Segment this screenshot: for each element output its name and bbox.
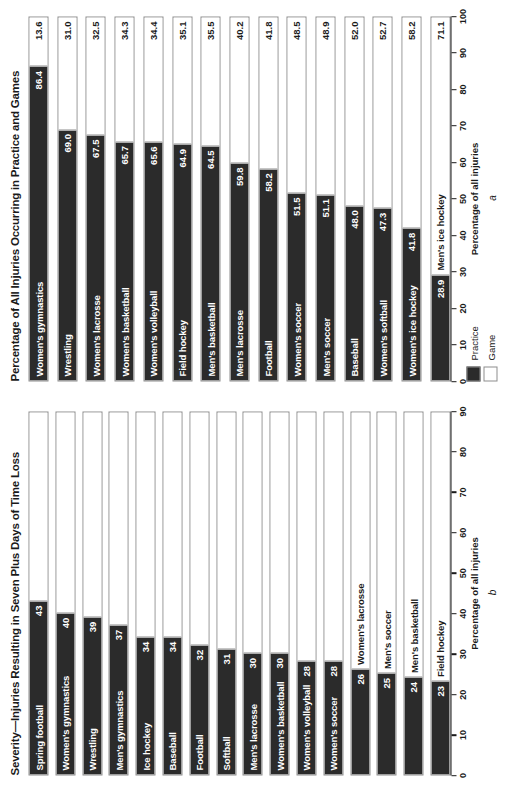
bar-category-label: Football [193, 734, 204, 774]
bar-value-practice: 65.7 [119, 146, 130, 165]
bar-segment-practice: Women's soccer51.5 [287, 193, 305, 380]
axis-tick-label: 20 [457, 303, 467, 313]
bar-value-practice: 64.5 [205, 150, 216, 169]
bar-segment-practice: Women's volleyball28 [297, 661, 315, 774]
legend: PracticeGame [466, 326, 497, 381]
bar-category-label: Wrestling [61, 334, 72, 380]
bar-value-practice: 28 [327, 665, 338, 676]
bar-segment-practice: Wrestling69.0 [58, 130, 76, 380]
axis-tick-label: 100 [457, 8, 467, 23]
bar-segment-practice: Men's gymnastics37 [109, 625, 127, 774]
bar-row: Wrestling39 [82, 411, 102, 775]
axis-tick [451, 271, 456, 272]
bar-row: 24Men's basketball [403, 411, 423, 775]
bar-segment-game: 35.1 [173, 17, 191, 144]
bar-segment-game: 41.8 [259, 17, 277, 169]
bar-segment-practice: Men's soccer51.1 [316, 195, 334, 380]
axis-tick [451, 380, 456, 381]
bar-value-practice: 59.8 [233, 167, 244, 186]
bar-category-label: Men's basketball [408, 598, 419, 676]
bar-segment-game: 34.4 [144, 17, 162, 142]
bar-row: Ice hockey34 [135, 411, 155, 775]
bar-value-practice: 28.9 [434, 279, 445, 298]
bar-segment-game: Field hockey [431, 412, 449, 682]
bar-value-practice: 67.5 [90, 139, 101, 158]
figure-page: Severity—Injuries Resulting in Seven Plu… [0, 0, 523, 789]
panel-a-x-axis: 0102030405060708090100 [450, 16, 461, 381]
bar-row: Women's gymnastics86.413.6 [28, 16, 48, 381]
axis-tick [451, 532, 456, 533]
bar-category-label: Baseball [348, 338, 359, 380]
bar-value-practice: 28 [300, 665, 311, 676]
axis-tick [451, 451, 456, 452]
bar-category-label: Softball [220, 736, 231, 774]
axis-tick-label: 40 [457, 230, 467, 240]
axis-tick-label: 40 [457, 608, 467, 618]
bar-category-label: Women's ice hockey [406, 285, 417, 380]
bar-segment-practice: Football58.2 [259, 169, 277, 380]
axis-tick-label: 80 [457, 84, 467, 94]
bar-value-game: 34.3 [119, 21, 130, 40]
bar-category-label: Men's lacrosse [233, 310, 244, 380]
bar-row: Men's basketball64.535.5 [200, 16, 220, 381]
bar-segment-game [83, 412, 101, 617]
axis-tick-label: 30 [457, 266, 467, 276]
axis-tick [451, 198, 456, 199]
bar-value-practice: 64.9 [176, 148, 187, 167]
bar-value-practice: 34 [140, 641, 151, 652]
bar-segment-practice: Women's volleyball65.6 [144, 142, 162, 380]
panel-a-letter: a [486, 195, 497, 201]
bar-segment-game: 35.5 [201, 17, 219, 146]
bar-category-label: Ice hockey [140, 722, 151, 774]
bar-row: Women's ice hockey41.858.2 [401, 16, 421, 381]
bar-category-label: Spring football [33, 704, 44, 774]
bar-value-game: 58.2 [406, 21, 417, 40]
bar-value-practice: 24 [408, 681, 419, 692]
bar-value-practice: 58.2 [262, 173, 273, 192]
panel-a-practice-vs-games: Percentage of All Injuries Occurring in … [0, 0, 523, 395]
bar-row: Field hockey64.935.1 [172, 16, 192, 381]
bar-row: Spring football43 [28, 411, 48, 775]
axis-tick-label: 20 [457, 689, 467, 699]
bar-segment-game: 13.6 [29, 17, 47, 66]
bar-row: 26Women's lacrosse [350, 411, 370, 775]
bar-segment-game: 34.3 [115, 17, 133, 142]
bar-category-label: Field hockey [176, 320, 187, 380]
axis-tick [451, 653, 456, 654]
bar-category-label: Men's gymnastics [113, 690, 124, 774]
axis-tick [451, 161, 456, 162]
bar-category-label: Women's basketball [119, 287, 130, 380]
axis-tick [451, 410, 456, 411]
bar-segment-game [163, 412, 181, 637]
bar-segment-practice: Women's basketball30 [270, 653, 288, 774]
bar-category-label: Wrestling [86, 728, 97, 774]
bar-value-game: 34.4 [147, 21, 158, 40]
bar-segment-practice: Men's lacrosse30 [243, 653, 261, 774]
axis-tick-label: 80 [457, 446, 467, 456]
axis-tick-label: 90 [457, 47, 467, 57]
axis-tick-label: 50 [457, 568, 467, 578]
axis-tick-label: 10 [457, 730, 467, 740]
bar-value-practice: 23 [434, 686, 445, 697]
bar-category-label: Women's volleyball [147, 290, 158, 380]
bar-row: Men's gymnastics37 [108, 411, 128, 775]
bar-row: Wrestling69.031.0 [57, 16, 77, 381]
bar-segment-practice: Women's soccer28 [324, 661, 342, 774]
axis-tick [451, 52, 456, 53]
bar-segment-practice: Women's gymnastics86.4 [29, 66, 47, 380]
bar-category-label: Men's ice hockey [434, 194, 445, 274]
bar-row: Women's basketball65.734.3 [114, 16, 134, 381]
bar-segment-game: Men's basketball [404, 412, 422, 677]
bar-value-practice: 86.4 [33, 70, 44, 89]
bar-segment-game: 48.5 [287, 17, 305, 193]
bar-row: 23Field hockey [430, 411, 450, 775]
bar-segment-game [109, 412, 127, 625]
bar-segment-game [243, 412, 261, 653]
axis-tick [451, 734, 456, 735]
bar-value-game: 48.5 [291, 21, 302, 40]
bar-row: Women's gymnastics40 [55, 411, 75, 775]
panel-b-plot-area: Spring football43Women's gymnastics40Wre… [28, 411, 450, 775]
bar-segment-practice: Football32 [190, 645, 208, 774]
legend-label: Game [485, 334, 496, 360]
bar-value-practice: 65.6 [147, 146, 158, 165]
